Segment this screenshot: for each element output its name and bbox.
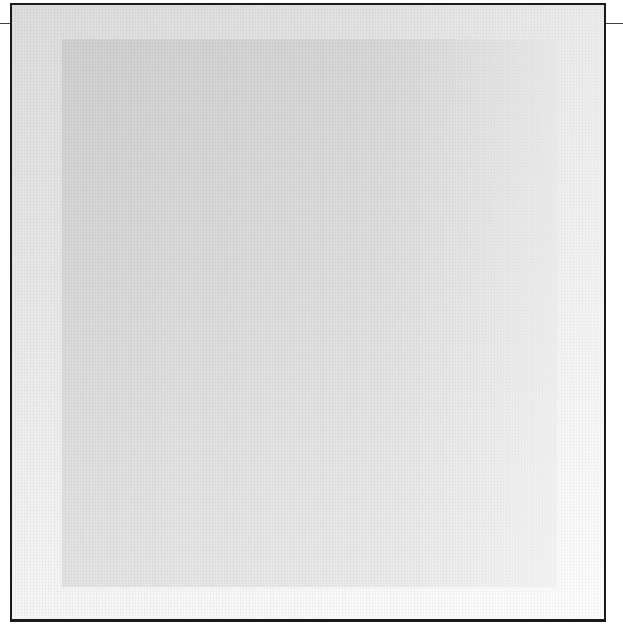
frame-tick-right: [606, 23, 623, 24]
inner-texture: [62, 39, 557, 587]
inner-square: [62, 39, 557, 587]
canvas-texture: [12, 5, 604, 619]
canvas-frame: [10, 3, 606, 622]
